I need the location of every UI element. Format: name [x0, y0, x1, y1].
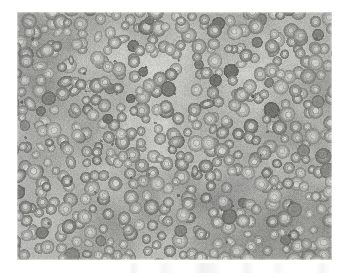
micrograph-panel — [17, 12, 332, 260]
caption-ghost-artifact — [120, 263, 342, 273]
figure-root — [0, 0, 349, 278]
blood-smear-micrograph-canvas — [17, 12, 332, 260]
